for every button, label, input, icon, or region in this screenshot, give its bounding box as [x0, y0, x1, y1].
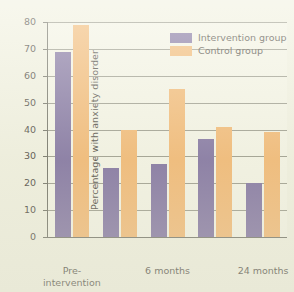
legend-swatch-control-icon — [170, 46, 192, 56]
x-tick-label: 24 months — [218, 265, 294, 277]
y-axis-tick — [43, 76, 48, 77]
y-tick-label: 50 — [10, 98, 36, 108]
chart-legend: Intervention group Control group — [170, 33, 287, 56]
y-tick-label: 60 — [10, 71, 36, 81]
bar-control — [121, 130, 137, 238]
gridline — [48, 22, 287, 23]
legend-label-intervention: Intervention group — [198, 33, 287, 43]
y-axis-tick — [43, 103, 48, 104]
y-axis-tick — [43, 22, 48, 23]
y-tick-label: 20 — [10, 178, 36, 188]
bar-control — [169, 89, 185, 237]
bar-control — [216, 127, 232, 237]
y-axis-tick — [43, 210, 48, 211]
y-axis-tick — [43, 49, 48, 50]
x-tick-label: 6 months — [123, 265, 213, 277]
legend-item-intervention: Intervention group — [170, 33, 287, 43]
legend-swatch-intervention-icon — [170, 33, 192, 43]
y-axis-tick — [43, 237, 48, 238]
legend-label-control: Control group — [198, 46, 263, 56]
y-axis-tick — [43, 183, 48, 184]
bar-intervention — [246, 183, 262, 237]
x-tick-label: Pre- intervention — [27, 265, 117, 288]
bar-intervention — [55, 52, 71, 237]
y-tick-label: 80 — [10, 17, 36, 27]
y-axis-tick — [43, 156, 48, 157]
bar-intervention — [198, 139, 214, 237]
y-tick-label: 10 — [10, 205, 36, 215]
bar-chart-figure: Percentage with anxiety disorder 0102030… — [0, 0, 294, 292]
y-tick-label: 70 — [10, 44, 36, 54]
legend-item-control: Control group — [170, 46, 287, 56]
y-axis-tick — [43, 130, 48, 131]
bar-intervention — [151, 164, 167, 237]
y-tick-label: 30 — [10, 151, 36, 161]
bar-control — [73, 25, 89, 237]
bar-control — [264, 132, 280, 237]
bar-intervention — [103, 168, 119, 237]
y-tick-label: 0 — [10, 232, 36, 242]
y-tick-label: 40 — [10, 125, 36, 135]
